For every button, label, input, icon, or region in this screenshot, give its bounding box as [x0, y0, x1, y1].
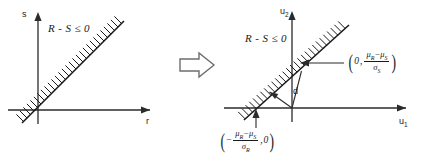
- distance-label: d: [293, 86, 298, 96]
- fraction-denominator: σS: [371, 62, 382, 73]
- x-intercept-coordinate: ( − μR−μS σR , 0 ): [219, 129, 276, 152]
- x-intercept-fraction: μR−μS σR: [233, 129, 258, 152]
- transformation-arrow: [180, 53, 214, 77]
- figure-canvas: s r R - S ≤ 0: [0, 0, 424, 161]
- distance-d-leader: [270, 92, 293, 108]
- left-region-label: R - S ≤ 0: [47, 22, 90, 34]
- coordinate-comma: ,: [359, 57, 363, 67]
- open-paren: (: [348, 53, 353, 71]
- open-paren: (: [220, 132, 225, 150]
- figure-vector-layer: s r R - S ≤ 0: [0, 0, 424, 161]
- y-intercept-fraction: μR−μS σS: [364, 50, 389, 73]
- y-intercept-pointer: [300, 59, 344, 66]
- left-x-axis-label: r: [146, 116, 149, 126]
- fraction-denominator: σR: [240, 141, 252, 152]
- y-intercept-coordinate: ( 0 , μR−μS σS ): [347, 50, 398, 73]
- close-paren: ): [392, 53, 397, 71]
- close-paren: ): [270, 132, 275, 150]
- right-y-axis-label: u2: [280, 6, 289, 18]
- left-y-axis-label: s: [22, 9, 27, 19]
- right-region-label: R - S ≤ 0: [244, 32, 287, 44]
- fraction-numerator: μR−μS: [364, 50, 389, 62]
- right-x-axis-label: u1: [399, 116, 408, 128]
- left-panel-group: s r R - S ≤ 0: [8, 9, 150, 126]
- leading-minus-sign: −: [226, 136, 232, 146]
- left-x-axis: [8, 106, 150, 113]
- x-intercept-last-component: 0: [264, 136, 269, 146]
- fraction-numerator: μR−μS: [233, 129, 258, 141]
